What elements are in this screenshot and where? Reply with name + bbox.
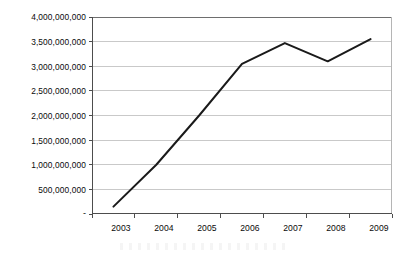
y-axis-tick-label: 500,000,000: [0, 186, 86, 194]
y-axis-tick-label: 2,000,000,000: [0, 112, 86, 120]
x-axis-tick-label: 2004: [141, 224, 187, 233]
line-chart: 4,000,000,000 3,500,000,000 3,000,000,00…: [0, 0, 406, 253]
x-axis-tick-label: 2003: [98, 224, 144, 233]
y-axis-tick-label: 1,000,000,000: [0, 161, 86, 169]
plot-area: [92, 17, 392, 214]
data-series-line: [113, 39, 370, 206]
x-axis-tick-label: 2008: [313, 224, 359, 233]
footer-artifact: [120, 243, 290, 250]
y-axis-tick-label: 4,000,000,000: [0, 13, 86, 21]
y-axis-tick-label-zero: -: [0, 209, 86, 218]
y-axis-tick-label: 2,500,000,000: [0, 87, 86, 95]
y-axis-tick-label: 3,500,000,000: [0, 38, 86, 46]
x-axis-tick-label: 2009: [356, 224, 402, 233]
x-axis-tick-label: 2007: [270, 224, 316, 233]
x-axis-tick-label: 2005: [184, 224, 230, 233]
x-axis-tick-label: 2006: [227, 224, 273, 233]
plot-svg: [92, 17, 392, 214]
y-axis-tick-label: 1,500,000,000: [0, 137, 86, 145]
y-axis-tick-label: 3,000,000,000: [0, 63, 86, 71]
